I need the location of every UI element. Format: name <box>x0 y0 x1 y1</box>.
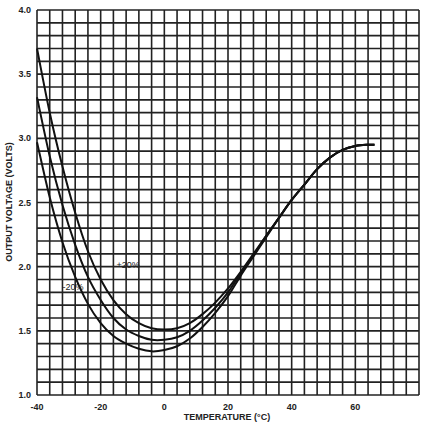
x-tick-label: -40 <box>30 402 43 412</box>
line-chart: 1.01.52.02.53.03.54.0 -40-200204060 +20%… <box>0 0 423 426</box>
annotation-plus-20: +20% <box>117 260 140 270</box>
x-tick-label: 20 <box>223 402 233 412</box>
x-axis-ticks: -40-200204060 <box>30 402 360 412</box>
annotation-minus-20: -20% <box>62 282 83 292</box>
y-tick-label: 2.5 <box>18 198 31 208</box>
grid <box>37 10 419 395</box>
y-tick-label: 3.5 <box>18 69 31 79</box>
y-axis-label: OUTPUT VOLTAGE (VOLTS) <box>4 142 14 262</box>
x-tick-label: -20 <box>94 402 107 412</box>
y-tick-label: 2.0 <box>18 262 31 272</box>
y-tick-label: 1.5 <box>18 326 31 336</box>
y-axis-ticks: 1.01.52.02.53.03.54.0 <box>18 5 31 400</box>
y-tick-label: 4.0 <box>18 5 31 15</box>
x-axis-label: TEMPERATURE (°C) <box>184 412 270 422</box>
y-tick-label: 3.0 <box>18 133 31 143</box>
x-tick-label: 0 <box>162 402 167 412</box>
y-tick-label: 1.0 <box>18 390 31 400</box>
x-tick-label: 40 <box>287 402 297 412</box>
x-tick-label: 60 <box>350 402 360 412</box>
